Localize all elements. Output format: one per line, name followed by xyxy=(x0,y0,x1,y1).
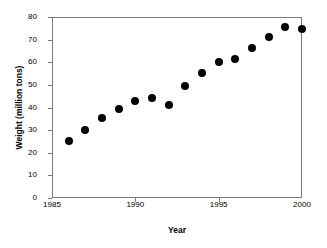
data-point xyxy=(165,101,173,109)
x-axis-title: Year xyxy=(52,226,302,235)
x-tick-label: 1990 xyxy=(115,201,155,209)
data-point xyxy=(148,94,156,102)
data-point xyxy=(248,44,256,52)
y-tick-mark xyxy=(48,17,52,18)
x-tick-label: 1995 xyxy=(199,201,239,209)
y-tick-mark xyxy=(48,198,52,199)
x-tick-mark xyxy=(219,198,220,202)
y-tick-mark xyxy=(48,130,52,131)
data-point xyxy=(265,33,273,41)
y-tick-mark xyxy=(48,40,52,41)
data-point xyxy=(298,25,306,33)
data-point xyxy=(115,105,123,113)
y-tick-mark xyxy=(48,108,52,109)
y-axis-title: Weight (million tons) xyxy=(15,38,24,178)
data-point xyxy=(65,137,73,145)
data-point xyxy=(198,69,206,77)
data-point xyxy=(215,58,223,66)
x-tick-label: 1985 xyxy=(32,201,72,209)
y-tick-label: 80 xyxy=(0,13,37,21)
x-tick-label: 2000 xyxy=(282,201,322,209)
y-tick-mark xyxy=(48,85,52,86)
x-tick-mark xyxy=(135,198,136,202)
scatter-chart: 01020304050607080 1985199019952000 Weigh… xyxy=(0,0,327,248)
plot-area xyxy=(52,17,302,198)
data-point xyxy=(98,114,106,122)
y-tick-mark xyxy=(48,62,52,63)
y-tick-mark xyxy=(48,175,52,176)
y-tick-mark xyxy=(48,153,52,154)
